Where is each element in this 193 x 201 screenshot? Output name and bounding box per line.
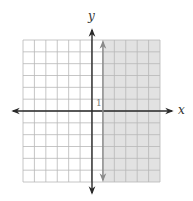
tick-label-y-1: 1 [96,98,102,108]
y-axis-label: y [88,9,95,23]
x-axis-label: x [178,103,185,117]
